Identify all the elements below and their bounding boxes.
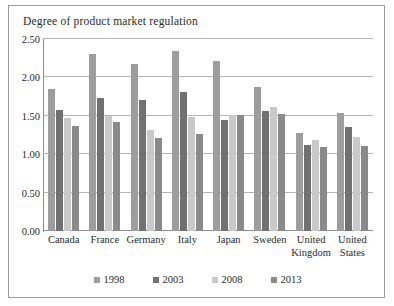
- bar: [139, 100, 146, 231]
- bar-group: [84, 39, 125, 231]
- bar: [353, 137, 360, 231]
- bar: [262, 111, 269, 231]
- bar: [113, 122, 120, 231]
- y-axis-tick-label: 2.00: [22, 72, 40, 83]
- y-axis-tick-label: 0.50: [22, 187, 40, 198]
- legend-label: 2013: [281, 274, 302, 285]
- bar-group: [249, 39, 290, 231]
- bar: [296, 133, 303, 231]
- bar: [196, 134, 203, 231]
- x-axis-category-label: Canada: [43, 234, 84, 247]
- chart-title: Degree of product market regulation: [23, 15, 198, 27]
- y-axis-tick-label: 2.50: [22, 34, 40, 45]
- bar: [155, 138, 162, 231]
- legend-swatch-icon: [94, 277, 100, 283]
- bar: [229, 115, 236, 231]
- bar: [312, 140, 319, 231]
- legend-item[interactable]: 2003: [153, 274, 184, 285]
- bar: [237, 115, 244, 231]
- bar: [221, 120, 228, 231]
- bar-group: [332, 39, 373, 231]
- bar: [270, 107, 277, 231]
- legend-item[interactable]: 2008: [212, 274, 243, 285]
- legend-label: 1998: [104, 274, 125, 285]
- bar: [304, 145, 311, 231]
- legend-label: 2003: [163, 274, 184, 285]
- legend-swatch-icon: [212, 277, 218, 283]
- bar-group: [208, 39, 249, 231]
- bar: [278, 114, 285, 231]
- bar-group: [167, 39, 208, 231]
- x-axis-category-labels: CanadaFranceGermanyItalyJapanSwedenUnite…: [43, 234, 373, 266]
- plot-area: [43, 39, 373, 231]
- chart-legend: 1998200320082013: [9, 274, 386, 285]
- legend-item[interactable]: 1998: [94, 274, 125, 285]
- chart-figure: Degree of product market regulation 2.50…: [8, 5, 385, 298]
- legend-swatch-icon: [153, 277, 159, 283]
- x-axis-category-label: Germany: [126, 234, 167, 247]
- bar: [188, 117, 195, 231]
- y-axis-tick-label: 1.50: [22, 110, 40, 121]
- bar: [361, 146, 368, 231]
- bar: [345, 127, 352, 231]
- bar: [180, 92, 187, 231]
- bar-group: [43, 39, 84, 231]
- bar: [48, 89, 55, 231]
- x-axis-category-label: Sweden: [249, 234, 290, 247]
- bar: [97, 98, 104, 231]
- bar-groups: [43, 39, 373, 231]
- bar: [147, 130, 154, 231]
- legend-item[interactable]: 2013: [271, 274, 302, 285]
- bar: [254, 87, 261, 231]
- legend-swatch-icon: [271, 277, 277, 283]
- bar: [320, 147, 327, 231]
- bar: [64, 118, 71, 231]
- y-axis-tick-label: 1.00: [22, 149, 40, 160]
- bar: [172, 51, 179, 231]
- bar: [131, 64, 138, 231]
- x-axis-category-label: UnitedStates: [332, 234, 373, 259]
- y-axis-tick-labels: 2.502.001.501.000.500.00: [9, 39, 40, 231]
- x-axis-category-label: Japan: [208, 234, 249, 247]
- bar: [213, 61, 220, 231]
- legend-label: 2008: [222, 274, 243, 285]
- x-axis-category-label: France: [84, 234, 125, 247]
- x-axis-category-label: UnitedKingdom: [291, 234, 332, 259]
- bar: [105, 116, 112, 231]
- bar: [56, 110, 63, 231]
- bar: [337, 113, 344, 231]
- bar-group: [126, 39, 167, 231]
- bar-group: [291, 39, 332, 231]
- bar: [89, 54, 96, 231]
- y-axis-tick-label: 0.00: [22, 226, 40, 237]
- bar: [72, 126, 79, 231]
- x-axis-category-label: Italy: [167, 234, 208, 247]
